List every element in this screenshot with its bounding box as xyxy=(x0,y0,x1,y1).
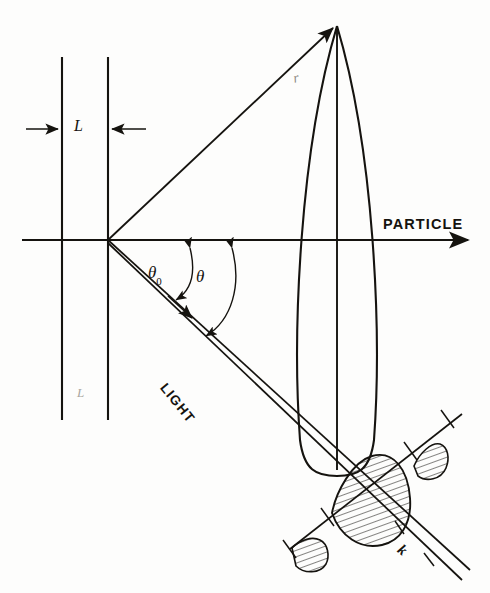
diagram-canvas xyxy=(0,0,490,593)
lens-element xyxy=(297,26,377,476)
upper-scattering-ray xyxy=(108,28,333,240)
light-beam xyxy=(108,240,470,580)
angle-indicators xyxy=(176,248,236,336)
optics-diagram-figure: PARTICLE LIGHT L L r k θ0 θ xyxy=(0,0,490,593)
slit-aperture-lines xyxy=(62,57,108,420)
